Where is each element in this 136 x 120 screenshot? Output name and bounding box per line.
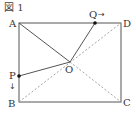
segment-po xyxy=(19,62,70,76)
label-b: B xyxy=(8,98,15,109)
geometry-figure: 図 1 A D B C O P Q → ↓ xyxy=(0,0,136,120)
label-a: A xyxy=(8,18,17,29)
label-d: D xyxy=(123,18,131,29)
label-c: C xyxy=(123,97,131,108)
q-direction-arrow-icon: → xyxy=(98,10,105,19)
p-direction-arrow-icon: ↓ xyxy=(9,82,16,91)
point-q-dot xyxy=(93,21,97,25)
segment-qo xyxy=(70,23,95,62)
figure-title: 図 1 xyxy=(4,2,24,13)
point-p-dot xyxy=(17,74,21,78)
label-o: O xyxy=(65,64,73,75)
segment-ao xyxy=(19,23,70,62)
diagonal-oc xyxy=(70,62,121,102)
label-q: Q xyxy=(89,9,97,20)
label-p: P xyxy=(9,70,16,81)
